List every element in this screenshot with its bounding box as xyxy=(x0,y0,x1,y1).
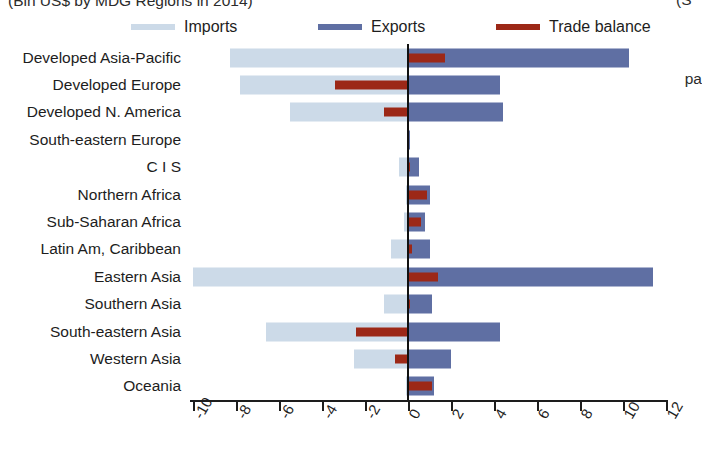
chart-row xyxy=(193,208,666,235)
legend-swatch-icon xyxy=(496,24,540,30)
x-axis-tick-label: 6 xyxy=(534,406,553,422)
bar-imports xyxy=(230,48,408,67)
legend-label: Imports xyxy=(184,14,237,40)
bar-imports xyxy=(391,240,408,259)
y-axis-label: Developed Europe xyxy=(0,71,186,98)
chart-row xyxy=(193,44,666,71)
bar-trade-balance xyxy=(335,81,408,90)
chart-row xyxy=(193,71,666,98)
bar-trade-balance xyxy=(408,53,445,62)
y-axis-label: South-eastern Asia xyxy=(0,318,186,345)
bar-trade-balance xyxy=(408,382,432,391)
chart-title: (Bln US$ by MDG Regions in 2014) xyxy=(8,0,428,11)
bar-exports xyxy=(408,349,451,368)
y-axis-label: South-eastern Europe xyxy=(0,126,186,153)
y-axis-label: Oceania xyxy=(0,373,186,400)
chart-row xyxy=(193,181,666,208)
x-axis-tick-label: 2 xyxy=(448,406,467,422)
legend-label: Exports xyxy=(371,14,425,40)
y-axis-label: Developed Asia-Pacific xyxy=(0,44,186,71)
legend-item-exports: Exports xyxy=(318,14,425,40)
chart-row xyxy=(193,154,666,181)
y-axis-label: C I S xyxy=(0,154,186,181)
bar-trade-balance xyxy=(408,272,438,281)
chart-row xyxy=(193,126,666,153)
zero-axis-line xyxy=(407,44,409,400)
bar-exports xyxy=(408,322,500,341)
chart-row xyxy=(193,373,666,400)
bar-imports xyxy=(193,267,408,286)
bar-exports xyxy=(408,76,500,95)
y-axis-label: Northern Africa xyxy=(0,181,186,208)
chart-row xyxy=(193,318,666,345)
y-axis-label: Developed N. America xyxy=(0,99,186,126)
y-axis-label: Eastern Asia xyxy=(0,263,186,290)
chart-row xyxy=(193,263,666,290)
y-axis-label: Southern Asia xyxy=(0,290,186,317)
bar-trade-balance xyxy=(384,108,408,117)
legend-item-imports: Imports xyxy=(131,14,237,40)
neighbour-figure-fragment-top: (S xyxy=(676,0,702,11)
y-axis-label: Sub-Saharan Africa xyxy=(0,208,186,235)
x-axis-line xyxy=(190,400,668,402)
y-axis-label: Western Asia xyxy=(0,345,186,372)
legend-item-trade-balance: Trade balance xyxy=(496,14,651,40)
x-axis-tick-label: 0 xyxy=(405,406,424,422)
legend-swatch-icon xyxy=(131,24,175,30)
bar-exports xyxy=(408,295,432,314)
bar-exports xyxy=(408,103,503,122)
chart-row xyxy=(193,99,666,126)
y-axis-category-labels: Developed Asia-PacificDeveloped EuropeDe… xyxy=(0,44,186,400)
bar-exports xyxy=(408,267,653,286)
chart-row xyxy=(193,290,666,317)
bar-trade-balance xyxy=(408,190,427,199)
plot-area xyxy=(193,44,666,400)
bar-trade-balance xyxy=(356,327,408,336)
bar-imports xyxy=(384,295,408,314)
bar-trade-balance xyxy=(408,217,421,226)
neighbour-figure-fragment-mid: pa xyxy=(668,70,702,90)
x-axis-tick-label: 4 xyxy=(491,406,510,422)
legend-swatch-icon xyxy=(318,24,362,30)
y-axis-label: Latin Am, Caribbean xyxy=(0,236,186,263)
chart-legend: ImportsExportsTrade balance xyxy=(0,14,702,40)
chart-title-text: (Bln US$ by MDG Regions in 2014) xyxy=(8,0,428,11)
trade-bar-chart-figure: (Bln US$ by MDG Regions in 2014) (S pa I… xyxy=(0,0,702,454)
x-axis-tick-label: 8 xyxy=(577,406,596,422)
legend-label: Trade balance xyxy=(549,14,651,40)
chart-row xyxy=(193,345,666,372)
chart-row xyxy=(193,236,666,263)
